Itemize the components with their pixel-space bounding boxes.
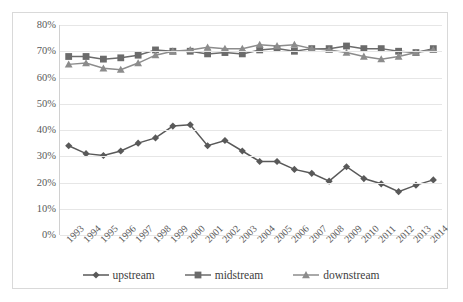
legend-marker-square-icon [185, 269, 211, 281]
data-point-marker [194, 272, 201, 279]
legend-item-midstream[interactable]: midstream [185, 269, 264, 281]
data-point-marker [92, 271, 99, 278]
y-axis-tick-label: 40% [37, 125, 56, 135]
data-point-marker [239, 147, 246, 154]
gridline [60, 156, 442, 157]
gridline [60, 183, 442, 184]
data-point-marker [65, 53, 72, 60]
data-point-marker [100, 56, 107, 63]
y-axis-tick-label: 70% [37, 46, 56, 56]
data-point-marker [395, 188, 402, 195]
legend-item-upstream[interactable]: upstream [83, 269, 155, 281]
data-point-marker [308, 170, 315, 177]
gridline [60, 78, 442, 79]
data-point-marker [135, 140, 142, 147]
legend-marker-triangle-icon [293, 269, 319, 281]
y-axis-tick-label: 0% [42, 230, 56, 240]
data-point-marker [83, 53, 90, 60]
y-axis-tick-label: 30% [37, 151, 56, 161]
data-point-marker [134, 59, 142, 66]
legend-item-downstream[interactable]: downstream [293, 269, 379, 281]
data-point-marker [221, 137, 228, 144]
data-point-marker [65, 142, 72, 149]
data-point-marker [256, 158, 263, 165]
data-point-marker [135, 52, 142, 59]
chart-legend: upstreammidstreamdownstream [13, 265, 449, 285]
legend-marker-diamond-icon [83, 269, 109, 281]
data-point-marker [273, 158, 280, 165]
data-point-marker [117, 54, 124, 61]
y-axis-tick-label: 60% [37, 73, 56, 83]
data-point-marker [378, 180, 385, 187]
plot-wrapper: 0%10%20%30%40%50%60%70%80% 1993199419951… [13, 13, 449, 290]
gridline [60, 25, 442, 26]
data-point-marker [117, 147, 124, 154]
y-axis: 0%10%20%30%40%50%60%70%80% [13, 13, 59, 243]
y-axis-tick-label: 10% [37, 204, 56, 214]
gridline [60, 130, 442, 131]
chart-container: 0%10%20%30%40%50%60%70%80% 1993199419951… [12, 12, 448, 289]
gridline [60, 51, 442, 52]
data-point-marker [291, 166, 298, 173]
legend-label: upstream [113, 269, 155, 281]
gridline [60, 209, 442, 210]
y-axis-tick-label: 20% [37, 178, 56, 188]
y-axis-tick-label: 50% [37, 99, 56, 109]
y-axis-tick-label: 80% [37, 20, 56, 30]
gridline [60, 104, 442, 105]
data-point-marker [343, 43, 350, 50]
legend-label: midstream [215, 269, 264, 281]
plot-area [59, 25, 442, 235]
legend-label: downstream [323, 269, 379, 281]
